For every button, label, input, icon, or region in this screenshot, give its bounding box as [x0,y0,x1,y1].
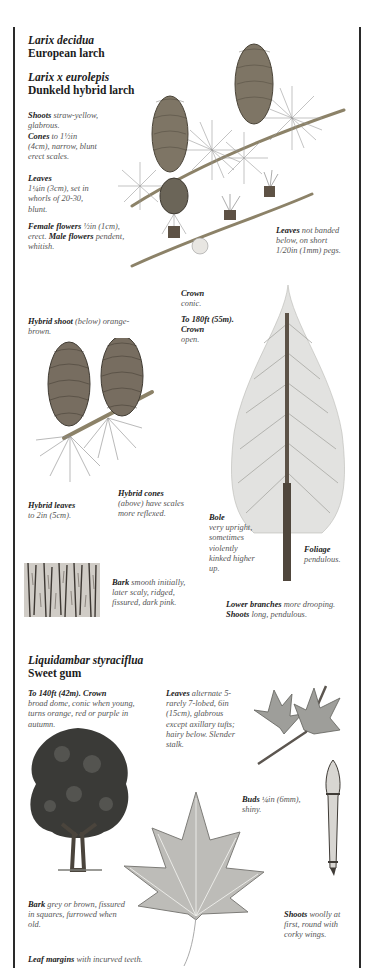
note-hybrid-leaves: Hybrid leavesto 2in (5cm). [28,501,108,521]
note-leaf-margins: Leaf margins with incurved teeth. [28,955,188,965]
left-border-rule [13,27,15,968]
note-cones: Cones to 1½in (4cm), narrow, blunt erect… [28,132,98,163]
note-sweetgum-leaves: Leaves alternate 5-rarely 7-lobed, 6in (… [166,689,242,750]
sweetgum-scientific-name: Liquidambar styraciflua [28,654,143,667]
note-leaves: Leaves 1¼in (3cm), set in whorls of 20-3… [28,174,93,215]
note-lower-branches: Lower branches more drooping. Shoots lon… [226,600,356,620]
note-bole: Bolevery upright, sometimes violently ki… [209,513,259,574]
note-foliage: Foliagependulous. [304,545,356,565]
right-border-rule [359,27,361,968]
sweetgum-bud-illustration [318,758,348,878]
larch-bark-illustration [24,563,100,617]
sweetgum-common-name: Sweet gum [28,667,81,680]
note-sweetgum-bark: Bark grey or brown, fissured in squares,… [28,900,128,931]
larch-shoot-illustration [112,38,352,270]
note-hybrid-shoot: Hybrid shoot (below) orange-brown. [28,317,138,337]
hybrid-cones-illustration [24,338,164,488]
larch-decidua-common-name: European larch [28,47,105,60]
larch-hybrid-scientific-name: Larix x eurolepis [28,71,109,84]
note-hybrid-cones: Hybrid cones(above) have scales more ref… [118,489,200,520]
field-guide-page: Larix decidua European larch Larix x eur… [0,0,376,972]
sweetgum-leaf-sprig-illustration [244,678,344,768]
sweetgum-leaf-illustration [118,788,268,968]
note-bark-larch: Bark smooth initially, later scaly, ridg… [112,578,200,609]
larch-decidua-scientific-name: Larix decidua [28,34,94,47]
note-shoots: Shoots straw-yellow, glabrous. [28,111,110,131]
note-sweetgum-shoots: Shoots woolly at first, round with corky… [284,910,354,941]
